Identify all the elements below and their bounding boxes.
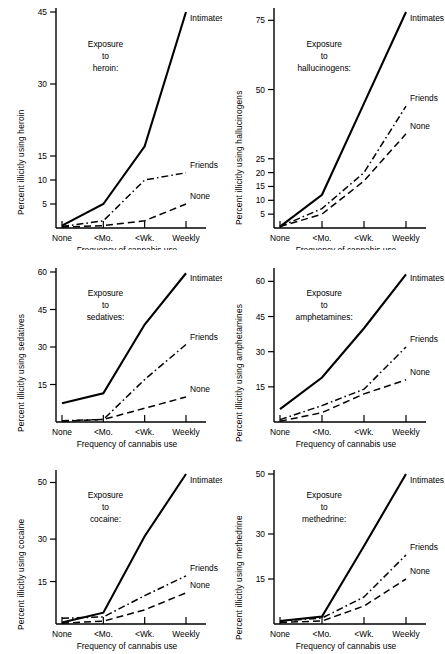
chart-canvas: 510153045None<Mo.<Wk.WeeklyFrequency of … [0, 0, 222, 250]
exposure-caption-line: sedatives: [87, 312, 125, 322]
x-tick-label: <Wk. [354, 427, 373, 437]
y-tick-label: 45 [38, 7, 48, 17]
x-tick-label: Weekly [392, 427, 420, 437]
y-tick-label: 30 [38, 79, 48, 89]
series-line-friends [62, 173, 186, 227]
series-label-friends: Friends [190, 563, 218, 573]
chart-panel-middle-right: Percent illicitly using amphetamines1530… [222, 250, 445, 452]
series-label-none: None [410, 367, 430, 377]
series-line-intimates [62, 12, 186, 226]
exposure-caption-line: Exposure [306, 490, 342, 500]
series-line-intimates [62, 474, 186, 623]
y-tick-label: 30 [38, 342, 48, 352]
x-tick-label: Weekly [172, 427, 200, 437]
x-tick-label: <Wk. [135, 629, 154, 639]
exposure-caption-line: Exposure [88, 490, 124, 500]
series-label-none: None [410, 566, 430, 576]
series-label-intimates: Intimates [190, 273, 222, 283]
series-label-friends: Friends [190, 332, 218, 342]
series-label-none: None [410, 121, 430, 131]
y-tick-label: 60 [38, 267, 48, 277]
exposure-caption-line: to [102, 502, 109, 512]
x-tick-label: <Wk. [354, 233, 373, 243]
x-axis-title: Frequency of cannabis use [77, 641, 178, 651]
series-line-intimates [62, 273, 186, 403]
x-tick-label: Weekly [392, 629, 420, 639]
chart-canvas: 153050None<Mo.<Wk.WeeklyFrequency of can… [0, 452, 222, 654]
y-tick-label: 20 [256, 168, 266, 178]
x-tick-label: None [270, 427, 290, 437]
series-label-intimates: Intimates [190, 475, 222, 485]
chart-panel-bottom-right: Percent illicitly using methedrine153050… [222, 452, 445, 654]
y-tick-label: 15 [256, 574, 266, 584]
exposure-caption-line: methedrine: [302, 514, 346, 524]
y-tick-label: 10 [256, 195, 266, 205]
x-tick-label: None [270, 233, 290, 243]
series-line-friends [62, 576, 186, 618]
x-tick-label: None [52, 427, 72, 437]
y-tick-label: 5 [260, 209, 265, 219]
x-axis-title: Frequency of cannabis use [296, 641, 397, 651]
exposure-caption-line: to [321, 51, 328, 61]
series-line-intimates [280, 474, 406, 621]
y-tick-label: 15 [38, 151, 48, 161]
chart-panel-bottom-left: Percent illicitly using cocaine153050Non… [0, 452, 222, 654]
exposure-caption-line: Exposure [306, 288, 342, 298]
figure-grid: Percent illicitly using heroin510153045N… [0, 0, 445, 654]
x-tick-label: <Mo. [94, 233, 113, 243]
series-line-friends [280, 347, 406, 420]
chart-canvas: 15304560None<Mo.<Wk.WeeklyFrequency of c… [0, 250, 222, 452]
series-label-intimates: Intimates [410, 273, 444, 283]
chart-canvas: 5101520255075None<Mo.<Wk.WeeklyFrequency… [222, 0, 445, 250]
exposure-caption-line: to [102, 51, 109, 61]
series-label-none: None [190, 580, 210, 590]
exposure-caption-line: Exposure [88, 39, 124, 49]
y-tick-label: 15 [256, 382, 266, 392]
y-tick-label: 10 [38, 175, 48, 185]
y-tick-label: 45 [256, 312, 266, 322]
series-label-friends: Friends [410, 334, 438, 344]
y-tick-label: 15 [38, 380, 48, 390]
chart-panel-top-left: Percent illicitly using heroin510153045N… [0, 0, 222, 250]
y-tick-label: 30 [256, 529, 266, 539]
y-tick-label: 30 [256, 347, 266, 357]
x-tick-label: <Mo. [313, 427, 332, 437]
exposure-caption-line: to [102, 300, 109, 310]
series-label-friends: Friends [190, 160, 218, 170]
x-tick-label: <Mo. [94, 427, 113, 437]
exposure-caption-line: hallucinogens: [297, 63, 351, 73]
exposure-caption-line: heroin: [93, 63, 119, 73]
y-tick-label: 45 [38, 305, 48, 315]
y-tick-label: 60 [256, 276, 266, 286]
series-line-none [62, 397, 186, 421]
y-tick-label: 15 [38, 577, 48, 587]
series-line-intimates [280, 274, 406, 409]
series-line-intimates [280, 12, 406, 227]
exposure-caption-line: Exposure [88, 288, 124, 298]
series-label-friends: Friends [410, 93, 438, 103]
y-tick-label: 25 [256, 154, 266, 164]
series-line-friends [280, 555, 406, 621]
series-label-none: None [190, 191, 210, 201]
series-line-friends [62, 345, 186, 421]
x-tick-label: Weekly [172, 233, 200, 243]
series-line-none [280, 579, 406, 623]
chart-canvas: 153050None<Mo.<Wk.WeeklyFrequency of can… [222, 452, 445, 654]
series-line-friends [280, 106, 406, 226]
y-tick-label: 50 [38, 477, 48, 487]
series-label-intimates: Intimates [410, 475, 444, 485]
y-tick-label: 75 [256, 15, 266, 25]
series-line-none [280, 380, 406, 421]
x-tick-label: None [270, 629, 290, 639]
x-tick-label: <Mo. [313, 629, 332, 639]
x-tick-label: None [52, 629, 72, 639]
series-label-intimates: Intimates [410, 13, 444, 23]
chart-panel-top-right: Percent illicitly using hallucinogens510… [222, 0, 445, 250]
x-tick-label: <Mo. [94, 629, 113, 639]
x-axis-title: Frequency of cannabis use [296, 439, 397, 449]
chart-canvas: 15304560None<Mo.<Wk.WeeklyFrequency of c… [222, 250, 445, 452]
series-label-intimates: Intimates [190, 13, 222, 23]
y-tick-label: 50 [256, 469, 266, 479]
x-tick-label: Weekly [172, 629, 200, 639]
series-label-friends: Friends [410, 542, 438, 552]
